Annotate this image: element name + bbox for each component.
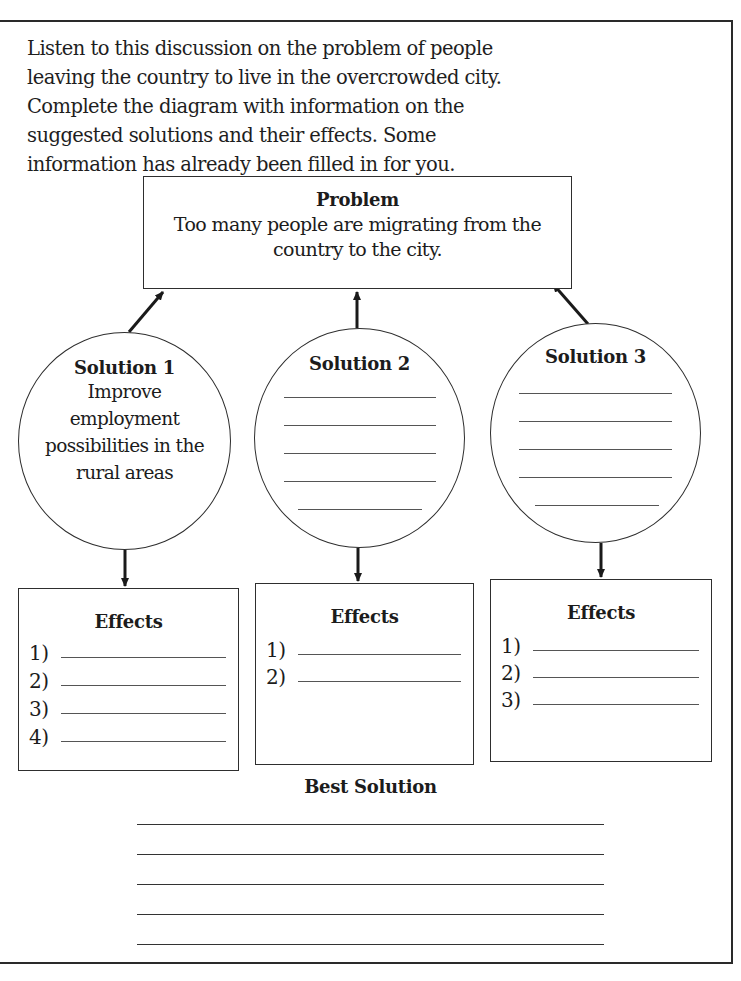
solution-3-answer-line-3[interactable] bbox=[519, 449, 672, 450]
effects-3-item[interactable]: 1) bbox=[501, 630, 699, 658]
effects-2-answer-line[interactable] bbox=[298, 681, 461, 682]
problem-title: Problem bbox=[144, 189, 571, 210]
solution-1-circle: Solution 1 Improve employment possibilit… bbox=[18, 332, 231, 550]
effects-box-1: Effects 1) 2) 3) 4) bbox=[18, 588, 239, 771]
solution-2-title: Solution 2 bbox=[255, 353, 464, 374]
best-solution-answer-line-4[interactable] bbox=[137, 914, 604, 915]
effects-1-item[interactable]: 4) bbox=[29, 721, 226, 749]
solution-1-text: Improve employment possibilities in the … bbox=[33, 378, 216, 486]
solution-2-answer-line-2[interactable] bbox=[284, 425, 436, 426]
best-solution-answer-line-2[interactable] bbox=[137, 854, 604, 855]
effects-3-item[interactable]: 3) bbox=[501, 684, 699, 712]
solution-3-answer-line-1[interactable] bbox=[519, 393, 672, 394]
effects-3-answer-line[interactable] bbox=[533, 650, 699, 651]
effects-1-answer-line[interactable] bbox=[61, 657, 226, 658]
solution-2-answer-line-4[interactable] bbox=[284, 481, 436, 482]
effects-2-item[interactable]: 1) bbox=[266, 634, 461, 662]
solution-3-title: Solution 3 bbox=[491, 346, 700, 367]
effects-1-answer-line[interactable] bbox=[61, 713, 226, 714]
solution-3-answer-line-4[interactable] bbox=[519, 477, 672, 478]
best-solution-answer-line-1[interactable] bbox=[137, 824, 604, 825]
effects-box-2: Effects 1) 2) bbox=[255, 583, 474, 765]
effects-1-item[interactable]: 1) bbox=[29, 637, 226, 665]
problem-box: Problem Too many people are migrating fr… bbox=[143, 176, 572, 289]
effects-3-number: 2) bbox=[501, 661, 533, 685]
effects-1-number: 4) bbox=[29, 725, 61, 749]
effects-2-number: 2) bbox=[266, 665, 298, 689]
best-solution-title: Best Solution bbox=[0, 776, 741, 797]
effects-1-answer-line[interactable] bbox=[61, 741, 226, 742]
solution-2-answer-line-5[interactable] bbox=[298, 509, 422, 510]
effects-1-answer-line[interactable] bbox=[61, 685, 226, 686]
best-solution-answer-line-3[interactable] bbox=[137, 884, 604, 885]
effects-3-item[interactable]: 2) bbox=[501, 657, 699, 685]
effects-1-number: 2) bbox=[29, 669, 61, 693]
effects-3-answer-line[interactable] bbox=[533, 677, 699, 678]
effects-2-title: Effects bbox=[256, 606, 473, 627]
solution-1-title: Solution 1 bbox=[19, 357, 230, 378]
solution-2-answer-line-3[interactable] bbox=[284, 453, 436, 454]
effects-3-number: 3) bbox=[501, 688, 533, 712]
problem-text: Too many people are migrating from the c… bbox=[150, 212, 565, 262]
solution-2-answer-line-1[interactable] bbox=[284, 397, 436, 398]
solution-2-circle: Solution 2 bbox=[254, 328, 465, 548]
effects-3-number: 1) bbox=[501, 634, 533, 658]
effects-1-item[interactable]: 2) bbox=[29, 665, 226, 693]
best-solution-answer-line-5[interactable] bbox=[137, 944, 604, 945]
effects-3-answer-line[interactable] bbox=[533, 704, 699, 705]
effects-1-item[interactable]: 3) bbox=[29, 693, 226, 721]
effects-2-item[interactable]: 2) bbox=[266, 661, 461, 689]
solution-3-circle: Solution 3 bbox=[490, 323, 701, 543]
instructions-text: Listen to this discussion on the problem… bbox=[27, 34, 527, 179]
solution-3-answer-line-2[interactable] bbox=[519, 421, 672, 422]
effects-1-number: 1) bbox=[29, 641, 61, 665]
effects-2-answer-line[interactable] bbox=[298, 654, 461, 655]
effects-1-number: 3) bbox=[29, 697, 61, 721]
solution-3-answer-line-5[interactable] bbox=[535, 505, 659, 506]
effects-3-title: Effects bbox=[491, 602, 711, 623]
effects-1-title: Effects bbox=[19, 611, 238, 632]
effects-box-3: Effects 1) 2) 3) bbox=[490, 579, 712, 762]
effects-2-number: 1) bbox=[266, 638, 298, 662]
